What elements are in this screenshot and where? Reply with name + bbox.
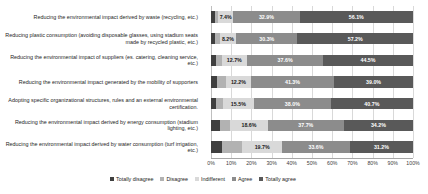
bar-segment-disagree (217, 76, 226, 88)
bar-segment-agree: 37.7% (268, 120, 344, 132)
legend-item[interactable]: Disagree (160, 176, 188, 182)
x-tick-label: 90% (388, 160, 398, 166)
x-tick-label: 70% (347, 160, 357, 166)
plot-area: 7.4%32.9%56.1%8.2%30.3%57.2%12.7%37.6%44… (211, 6, 413, 158)
legend-swatch-icon (160, 177, 164, 181)
bar-series-container: 7.4%32.9%56.1%8.2%30.3%57.2%12.7%37.6%44… (211, 6, 413, 158)
bar-segment-indifferent: 12.7% (222, 55, 248, 67)
bar-segment-indifferent: 12.2% (226, 76, 251, 88)
x-tick-label: 10% (226, 160, 236, 166)
legend-label: Disagree (166, 176, 188, 182)
bar-segment-totally-disagree (211, 141, 222, 153)
legend-item[interactable]: Indifferent (195, 176, 225, 182)
legend-swatch-icon (232, 177, 236, 181)
bar-segment-agree: 41.3% (251, 76, 334, 88)
x-tick-label: 50% (307, 160, 317, 166)
x-tick-label: 30% (266, 160, 276, 166)
bar-row: 8.2%30.3%57.2% (211, 33, 413, 45)
legend-swatch-icon (110, 177, 114, 181)
bar-row: 15.5%38.0%40.7% (211, 98, 413, 110)
stacked-bar-chart: Reducing the environmental impact derive… (0, 0, 428, 194)
x-tick-label: 40% (287, 160, 297, 166)
category-label: Reducing the environmental impact genera… (0, 71, 202, 93)
x-tick-label: 60% (327, 160, 337, 166)
bar-segment-indifferent: 19.7% (242, 141, 282, 153)
bar-segment-agree: 38.0% (254, 98, 331, 110)
bar-segment-agree: 33.6% (282, 141, 350, 153)
bar-segment-disagree (222, 141, 242, 153)
bar-segment-totally-agree: 34.2% (344, 120, 413, 132)
bar-row: 12.2%41.3%39.0% (211, 76, 413, 88)
legend-item[interactable]: Agree (232, 176, 252, 182)
category-label: Reducing plastic consumption (avoiding d… (0, 28, 202, 50)
legend-label: Indifferent (201, 176, 225, 182)
category-label: Reducing the environmental impact derive… (0, 136, 202, 158)
bar-row: 19.7%33.6%31.2% (211, 141, 413, 153)
x-tick-label: 20% (246, 160, 256, 166)
gridline-100 (413, 6, 414, 158)
chart-legend: Totally disagreeDisagreeIndifferentAgree… (110, 176, 296, 182)
bar-segment-indifferent: 8.2% (220, 33, 237, 45)
category-label-text: Adopting specific organizational structu… (0, 97, 198, 110)
bar-row: 12.7%37.6%44.5% (211, 55, 413, 67)
x-axis-tick-labels: 0%10%20%30%40%50%60%70%80%90%100% (205, 160, 421, 170)
x-tick-label: 100% (406, 160, 419, 166)
category-axis-labels: Reducing the environmental impact derive… (0, 6, 206, 158)
category-label: Reducing the environmental impact of sup… (0, 49, 202, 71)
bar-row: 7.4%32.9%56.1% (211, 11, 413, 23)
bar-segment-totally-agree: 39.0% (334, 76, 413, 88)
bar-segment-disagree (220, 120, 231, 132)
x-tick-label: 0% (207, 160, 215, 166)
category-label-text: Reducing the environmental impact derive… (0, 119, 198, 132)
category-label: Reducing the environmental impact derive… (0, 115, 202, 137)
bar-segment-indifferent: 15.5% (223, 98, 254, 110)
bar-segment-totally-agree: 56.1% (300, 11, 413, 23)
category-label-text: Reducing the environmental impact of sup… (0, 54, 198, 67)
bar-segment-agree: 30.3% (236, 33, 297, 45)
bar-segment-indifferent: 18.6% (230, 120, 268, 132)
bar-segment-indifferent: 7.4% (218, 11, 233, 23)
category-label-text: Reducing the environmental impact derive… (34, 14, 199, 21)
legend-swatch-icon (259, 177, 263, 181)
legend-label: Totally disagree (116, 176, 153, 182)
bar-segment-totally-agree: 31.2% (350, 141, 413, 153)
legend-item[interactable]: Totally agree (259, 176, 296, 182)
bar-segment-totally-agree: 57.2% (297, 33, 413, 45)
category-label: Reducing the environmental impact derive… (0, 6, 202, 28)
legend-label: Agree (238, 176, 252, 182)
category-label-text: Reducing plastic consumption (avoiding d… (0, 32, 198, 45)
category-label-text: Reducing the environmental impact genera… (19, 79, 198, 86)
bar-segment-agree: 32.9% (233, 11, 299, 23)
bar-segment-totally-agree: 44.5% (323, 55, 413, 67)
category-label-text: Reducing the environmental impact derive… (0, 141, 198, 154)
bar-segment-totally-agree: 40.7% (331, 98, 413, 110)
bar-row: 18.6%37.7%34.2% (211, 120, 413, 132)
legend-label: Totally agree (265, 176, 296, 182)
x-axis-line (211, 158, 413, 159)
x-tick-label: 80% (367, 160, 377, 166)
bar-segment-totally-disagree (211, 120, 220, 132)
category-label: Adopting specific organizational structu… (0, 93, 202, 115)
bar-segment-agree: 37.6% (247, 55, 323, 67)
legend-item[interactable]: Totally disagree (110, 176, 153, 182)
legend-swatch-icon (195, 177, 199, 181)
